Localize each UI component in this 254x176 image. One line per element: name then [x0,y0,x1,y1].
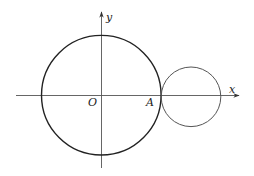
x-axis-label: x [229,83,236,96]
small-circle [161,67,221,127]
y-axis-label: y [105,11,113,24]
point-a-label: A [145,96,154,109]
coordinate-diagram: y x O A [0,0,254,176]
origin-label: O [88,96,97,109]
